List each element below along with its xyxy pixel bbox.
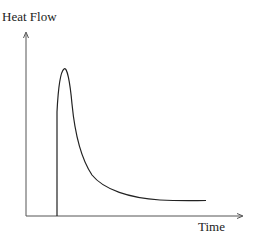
y-axis: [24, 32, 29, 216]
x-axis: [26, 214, 243, 219]
heat-flow-curve: [57, 69, 206, 216]
chart-plot: [0, 0, 254, 239]
